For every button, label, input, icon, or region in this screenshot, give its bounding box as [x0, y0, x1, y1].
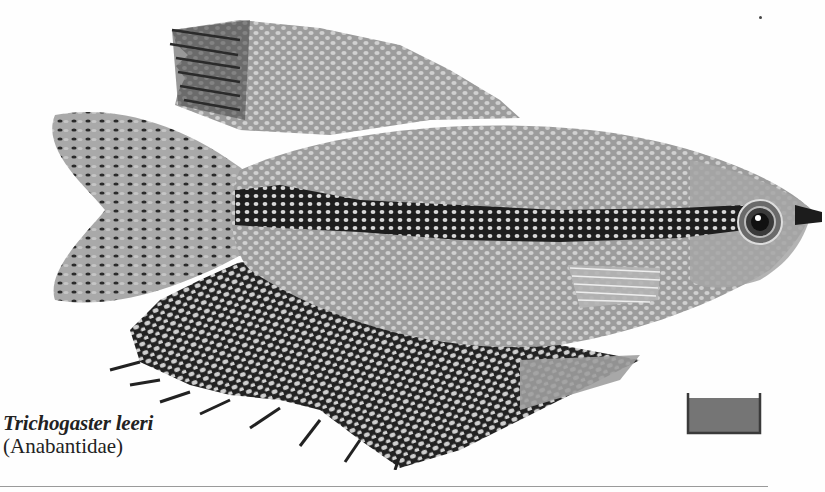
aquarium-tank-icon	[686, 393, 762, 435]
print-speck	[759, 16, 762, 19]
family-name: (Anabantidae)	[3, 435, 153, 458]
species-name: Trichogaster leeri	[3, 412, 153, 435]
fish-eye	[738, 200, 782, 244]
dorsal-fin	[170, 20, 520, 135]
page-divider	[0, 486, 768, 487]
figure-caption: Trichogaster leeri (Anabantidae)	[3, 412, 153, 458]
pectoral-fin	[568, 265, 660, 308]
book-page: Trichogaster leeri (Anabantidae)	[0, 0, 825, 492]
